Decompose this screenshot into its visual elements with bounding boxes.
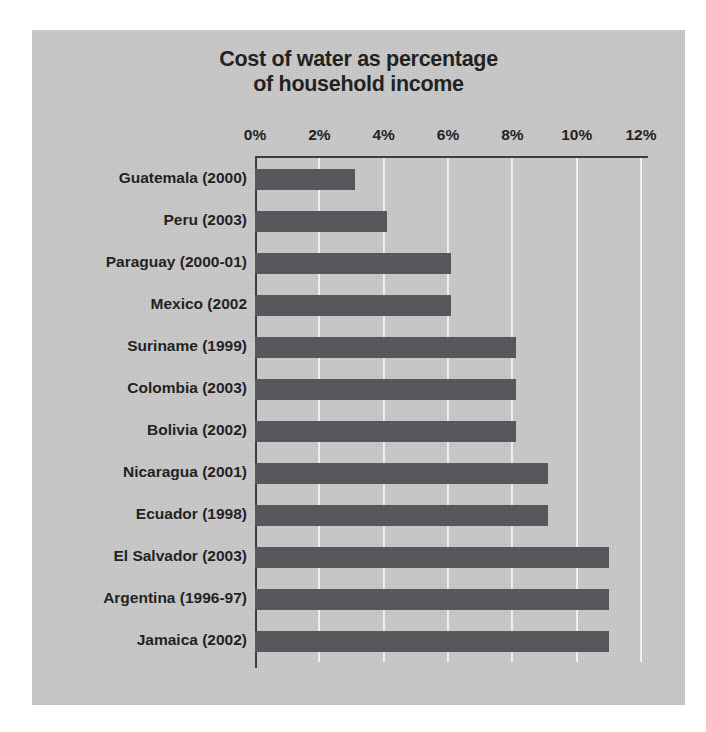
gridline-12pct (640, 158, 642, 662)
category-label: Ecuador (1998) (136, 505, 247, 523)
category-label: Colombia (2003) (127, 379, 247, 397)
bar (255, 589, 609, 610)
category-label: Nicaragua (2001) (123, 463, 247, 481)
category-label: Argentina (1996-97) (103, 589, 247, 607)
bar (255, 337, 516, 358)
x-tick-label-6pct: 6% (418, 126, 478, 144)
chart-figure: Cost of water as percentage of household… (32, 30, 685, 705)
category-label: Suriname (1999) (127, 337, 247, 355)
x-tick-label-4pct: 4% (354, 126, 414, 144)
gridline-8pct (511, 158, 513, 662)
bar (255, 631, 609, 652)
bar (255, 169, 355, 190)
gridline-2pct (318, 158, 320, 662)
bar (255, 253, 451, 274)
plot-area (255, 158, 641, 662)
category-label: Guatemala (2000) (119, 169, 247, 187)
x-tick-label-10pct: 10% (547, 126, 607, 144)
chart-title: Cost of water as percentage of household… (32, 47, 685, 97)
category-label: El Salvador (2003) (113, 547, 247, 565)
y-axis-category-labels: Guatemala (2000)Peru (2003)Paraguay (200… (32, 158, 247, 662)
category-label: Jamaica (2002) (137, 631, 247, 649)
bar (255, 211, 387, 232)
gridline-4pct (383, 158, 385, 662)
x-tick-label-8pct: 8% (482, 126, 542, 144)
gridline-10pct (576, 158, 578, 662)
bar (255, 421, 516, 442)
x-tick-label-12pct: 12% (611, 126, 671, 144)
bar (255, 379, 516, 400)
category-label: Paraguay (2000-01) (106, 253, 247, 271)
category-label: Bolivia (2002) (147, 421, 247, 439)
category-label: Mexico (2002 (151, 295, 248, 313)
x-tick-label-0pct: 0% (225, 126, 285, 144)
gridline-6pct (447, 158, 449, 662)
bar (255, 295, 451, 316)
x-tick-label-2pct: 2% (289, 126, 349, 144)
bar (255, 547, 609, 568)
bar (255, 463, 548, 484)
bar (255, 505, 548, 526)
category-label: Peru (2003) (163, 211, 247, 229)
